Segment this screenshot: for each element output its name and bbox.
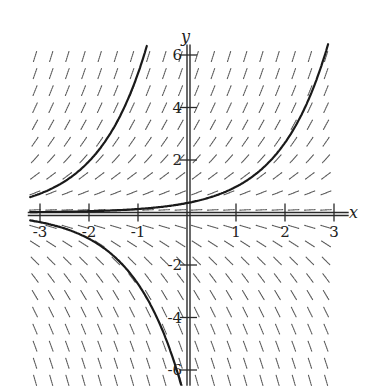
slope-mark: [82, 68, 86, 78]
slope-mark: [226, 137, 232, 146]
slope-mark: [111, 241, 120, 247]
slope-mark: [305, 225, 316, 228]
x-tick-label: -3: [33, 223, 48, 241]
slope-mark: [258, 155, 265, 163]
slope-mark: [113, 274, 120, 283]
slope-mark: [175, 225, 186, 228]
slope-mark: [176, 191, 186, 195]
slope-mark: [159, 191, 169, 195]
slope-mark: [145, 155, 152, 163]
slope-mark: [307, 137, 313, 146]
slope-mark: [308, 324, 312, 334]
slope-mark: [226, 120, 231, 130]
slope-mark: [146, 341, 150, 351]
slope-mark: [162, 290, 168, 299]
slope-mark: [163, 51, 166, 61]
slope-mark: [114, 85, 118, 95]
slope-mark: [260, 358, 263, 368]
slope-mark: [195, 341, 199, 351]
slope-mark: [98, 375, 101, 386]
slope-mark: [291, 137, 297, 146]
slope-mark: [176, 241, 185, 247]
slope-mark: [163, 375, 166, 386]
slope-mark: [273, 191, 283, 195]
slope-mark: [308, 68, 312, 78]
slope-mark: [322, 172, 331, 179]
slope-mark: [114, 341, 118, 351]
slope-mark: [324, 341, 328, 351]
slope-mark: [128, 155, 135, 163]
slope-mark: [146, 324, 150, 334]
slope-mark: [127, 191, 137, 195]
slope-mark: [49, 68, 53, 78]
slope-mark: [227, 85, 231, 95]
slope-mark: [111, 191, 121, 195]
slope-mark: [179, 85, 183, 95]
slope-mark: [259, 120, 264, 130]
slope-mark: [113, 137, 119, 146]
slope-mark: [130, 51, 133, 61]
slope-mark: [211, 324, 215, 334]
slope-mark: [127, 241, 136, 247]
slope-mark: [112, 172, 121, 179]
slope-mark: [192, 225, 203, 228]
slope-mark: [292, 358, 295, 368]
slope-mark: [65, 85, 69, 95]
slope-mark: [194, 120, 199, 130]
slope-mark: [291, 274, 298, 283]
slope-mark: [30, 210, 41, 211]
slope-mark: [78, 210, 89, 211]
slope-mark: [179, 341, 183, 351]
slope-mark: [49, 103, 54, 113]
slope-mark: [81, 120, 86, 130]
slope-mark: [208, 225, 219, 228]
slope-mark: [146, 120, 151, 130]
slope-mark: [225, 257, 233, 265]
slope-mark: [308, 375, 311, 386]
slope-mark: [324, 68, 328, 78]
x-tick-label: -1: [131, 223, 146, 241]
slope-mark: [31, 155, 38, 163]
slope-mark: [95, 172, 104, 179]
slope-mark: [62, 191, 72, 195]
slope-mark: [49, 341, 53, 351]
slope-mark: [194, 290, 200, 299]
slope-mark: [195, 375, 198, 386]
slope-mark: [114, 103, 119, 113]
slope-mark: [195, 68, 199, 78]
slope-mark: [242, 274, 249, 283]
slope-mark: [144, 257, 152, 265]
slope-mark: [49, 324, 53, 334]
slope-mark: [146, 68, 150, 78]
slope-mark: [161, 155, 168, 163]
slope-mark: [81, 307, 86, 317]
slope-mark: [130, 307, 135, 317]
slope-mark: [210, 290, 216, 299]
slope-mark: [306, 155, 313, 163]
slope-mark: [130, 341, 134, 351]
slope-mark: [97, 307, 102, 317]
slope-mark: [64, 155, 71, 163]
slope-mark: [159, 210, 170, 211]
x-tick-label: 2: [280, 223, 290, 241]
slope-mark: [275, 137, 281, 146]
slope-mark: [32, 137, 38, 146]
slope-mark: [207, 210, 218, 211]
slope-mark: [114, 375, 117, 386]
slope-mark: [81, 324, 85, 334]
slope-mark: [308, 307, 313, 317]
slope-mark: [276, 375, 279, 386]
slope-mark: [321, 210, 332, 211]
slope-mark: [32, 120, 37, 130]
y-tick-label: -4: [167, 309, 182, 327]
slope-mark: [163, 68, 167, 78]
slope-mark: [31, 172, 40, 179]
x-axis-label: x: [349, 203, 358, 222]
slope-mark: [209, 172, 218, 179]
slope-mark: [242, 137, 248, 146]
slope-mark: [98, 358, 101, 368]
x-tick-label: 1: [231, 223, 241, 241]
slope-mark: [194, 307, 199, 317]
slope-mark: [241, 172, 250, 179]
slope-mark: [178, 120, 183, 130]
